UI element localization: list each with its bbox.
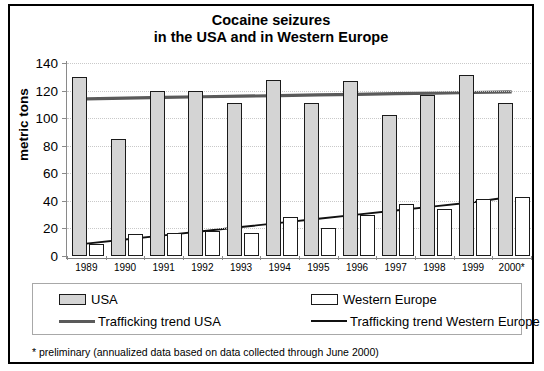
bar-western-europe xyxy=(167,233,182,256)
legend-label-western-europe: Western Europe xyxy=(343,292,437,307)
y-axis-tick-label: 100 xyxy=(35,111,58,126)
y-axis-title: metric tons xyxy=(16,88,31,161)
x-axis-tick xyxy=(454,256,455,260)
x-axis-tick-label: 2000* xyxy=(499,262,525,273)
x-axis-tick-label: 1989 xyxy=(75,262,97,273)
legend-swatch-usa-icon xyxy=(59,294,86,305)
bar-usa xyxy=(343,81,358,256)
bar-usa xyxy=(382,115,397,256)
y-axis-tick-label: 80 xyxy=(43,138,58,153)
bar-western-europe xyxy=(244,233,259,256)
chart-title-line-2: in the USA and in Western Europe xyxy=(10,29,532,46)
y-axis-tick-label: 60 xyxy=(43,166,58,181)
legend-item-trend-western-europe[interactable]: Trafficking trend Western Europe xyxy=(311,310,540,332)
x-axis-tick xyxy=(299,256,300,260)
x-axis-tick xyxy=(415,256,416,260)
bar-usa xyxy=(498,103,513,256)
plot-area: 0204060801001201401989199019911992199319… xyxy=(67,63,531,256)
y-axis-tick xyxy=(62,118,67,119)
x-axis-tick-label: 1990 xyxy=(114,262,136,273)
y-axis-tick xyxy=(62,201,67,202)
y-axis-tick xyxy=(62,173,67,174)
bar-usa xyxy=(111,139,126,256)
legend-item-usa[interactable]: USA xyxy=(59,288,118,310)
chart-title-line-1: Cocaine seizures xyxy=(10,12,532,29)
bar-western-europe xyxy=(399,204,414,256)
y-axis-tick xyxy=(62,146,67,147)
bar-western-europe xyxy=(437,209,452,256)
x-axis-tick xyxy=(338,256,339,260)
legend-label-usa: USA xyxy=(91,292,118,307)
y-axis-tick-label: 140 xyxy=(35,56,58,71)
legend-swatch-trend-western-europe-icon xyxy=(311,320,347,322)
x-axis-tick-label: 1999 xyxy=(462,262,484,273)
x-axis-tick xyxy=(376,256,377,260)
y-axis-tick xyxy=(62,63,67,64)
bar-usa xyxy=(266,80,281,256)
x-axis-tick-label: 1995 xyxy=(307,262,329,273)
x-axis-tick xyxy=(183,256,184,260)
y-axis-tick xyxy=(62,91,67,92)
bar-western-europe xyxy=(283,217,298,256)
chart-frame: Cocaine seizures in the USA and in Weste… xyxy=(8,4,534,364)
bar-western-europe xyxy=(476,199,491,256)
x-axis-tick-label: 1992 xyxy=(191,262,213,273)
bar-usa xyxy=(72,77,87,256)
bar-western-europe xyxy=(321,228,336,256)
bar-western-europe xyxy=(89,244,104,256)
bar-usa xyxy=(150,91,165,256)
x-axis-tick xyxy=(260,256,261,260)
legend-label-trend-usa: Trafficking trend USA xyxy=(98,314,221,329)
legend-label-trend-western-europe: Trafficking trend Western Europe xyxy=(350,314,540,329)
legend-item-western-europe[interactable]: Western Europe xyxy=(311,288,437,310)
x-axis-tick xyxy=(531,256,532,260)
x-axis-tick xyxy=(67,256,68,260)
x-axis-tick xyxy=(222,256,223,260)
bar-usa xyxy=(459,75,474,256)
x-axis-tick xyxy=(492,256,493,260)
x-axis-tick-label: 1996 xyxy=(346,262,368,273)
x-axis-tick-label: 1994 xyxy=(269,262,291,273)
x-axis-tick-label: 1993 xyxy=(230,262,252,273)
x-axis-tick xyxy=(144,256,145,260)
chart-legend: USA Western Europe Trafficking trend USA… xyxy=(32,283,522,335)
bar-usa xyxy=(227,103,242,256)
legend-item-trend-usa[interactable]: Trafficking trend USA xyxy=(59,310,221,332)
y-axis-tick-label: 20 xyxy=(43,221,58,236)
bar-usa xyxy=(420,95,435,256)
y-axis-tick-label: 120 xyxy=(35,83,58,98)
bar-western-europe xyxy=(205,231,220,256)
legend-swatch-trend-usa-icon xyxy=(59,320,95,323)
legend-swatch-western-europe-icon xyxy=(311,294,338,305)
bar-western-europe xyxy=(360,215,375,256)
chart-footnote: * preliminary (annualized data based on … xyxy=(32,346,379,358)
bar-western-europe xyxy=(515,197,530,256)
bar-western-europe xyxy=(128,234,143,256)
x-axis-tick-label: 1997 xyxy=(385,262,407,273)
gridline xyxy=(67,63,531,64)
y-axis-tick-label: 0 xyxy=(50,249,58,264)
bar-usa xyxy=(304,103,319,256)
y-axis-tick xyxy=(62,228,67,229)
x-axis-tick-label: 1991 xyxy=(153,262,175,273)
chart-title: Cocaine seizures in the USA and in Weste… xyxy=(10,12,532,46)
x-axis-tick-label: 1998 xyxy=(423,262,445,273)
y-axis-tick-label: 40 xyxy=(43,193,58,208)
x-axis-tick xyxy=(106,256,107,260)
bar-usa xyxy=(188,91,203,256)
